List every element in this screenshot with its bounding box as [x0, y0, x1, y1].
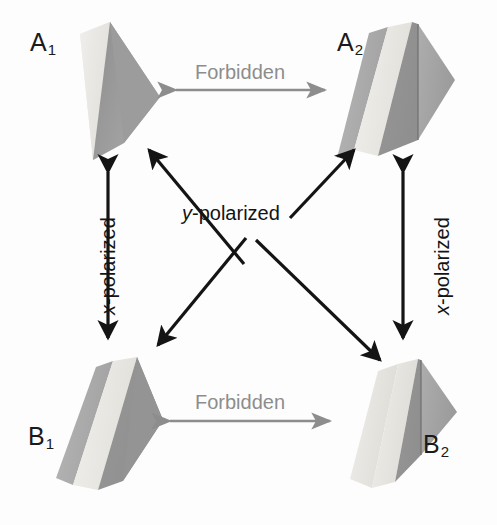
state-label-B2-sub: 2: [441, 443, 449, 460]
y-polarized-italic: y: [182, 202, 192, 224]
x-polarized-right-italic: x: [431, 305, 453, 315]
state-label-A1-base: A: [30, 28, 47, 56]
state-label-B1-base: B: [28, 422, 45, 450]
y-polarized-arrow-upright[interactable]: [290, 150, 354, 218]
state-label-A2-base: A: [337, 28, 354, 56]
state-label-A1: A1: [30, 30, 55, 55]
state-label-B2: B2: [423, 432, 448, 457]
transition-label-forbidden-bottom: Forbidden: [195, 392, 285, 412]
transition-label-x-polarized-left: x-polarized: [98, 217, 118, 315]
transition-label-forbidden-top: Forbidden: [195, 62, 285, 82]
state-label-A2: A2: [337, 30, 362, 55]
state-label-A1-sub: 1: [48, 41, 56, 58]
diagram-canvas: A1 A2 B1 B2 Forbidden Forbidden x-polari…: [0, 0, 497, 525]
state-label-B2-base: B: [423, 430, 440, 458]
transition-arrow-A1-B2[interactable]: [149, 150, 380, 360]
y-polarized-rest: -polarized: [192, 202, 280, 224]
y-polarized-arrow-downleft[interactable]: [158, 238, 246, 345]
transition-label-x-polarized-right: x-polarized: [432, 217, 452, 315]
x-polarized-left-italic: x: [97, 305, 119, 315]
state-label-A2-sub: 2: [355, 41, 363, 58]
x-polarized-left-rest: -polarized: [97, 217, 119, 305]
state-label-B1-sub: 1: [46, 435, 54, 452]
y-polarized-arrow-downright[interactable]: [256, 240, 380, 360]
x-polarized-right-rest: -polarized: [431, 217, 453, 305]
transition-arrow-A2-B1[interactable]: [158, 150, 354, 345]
transition-label-y-polarized: y-polarized: [182, 203, 280, 223]
state-label-B1: B1: [28, 424, 53, 449]
